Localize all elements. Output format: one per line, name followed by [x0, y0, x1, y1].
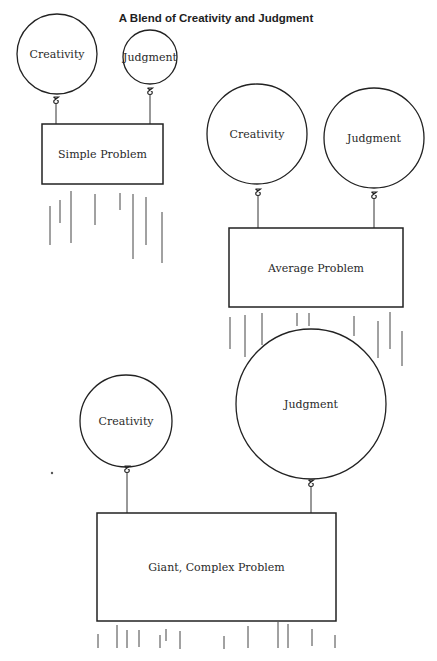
motion-lines [50, 191, 162, 263]
balloon-knot-icon [256, 189, 261, 196]
balloon-label: Judgment [346, 132, 402, 145]
balloon-judgment: Judgment [236, 329, 386, 487]
balloon-knot-icon [309, 480, 314, 487]
creativity-judgment-diagram: A Blend of Creativity and Judgment Creat… [0, 0, 437, 661]
balloon-label: Judgment [283, 398, 339, 411]
scene-average: CreativityJudgmentAverage Problem [207, 84, 424, 366]
scene-simple: CreativityJudgmentSimple Problem [17, 14, 178, 263]
balloon-label: Creativity [98, 415, 154, 428]
balloon-label: Creativity [29, 48, 85, 61]
balloon-creativity: Creativity [80, 375, 172, 473]
balloon-label: Judgment [122, 51, 178, 64]
balloon-knot-icon [372, 192, 377, 199]
problem-label: Average Problem [267, 262, 364, 275]
balloon-judgment: Judgment [324, 88, 424, 199]
motion-lines [98, 622, 335, 649]
balloon-judgment: Judgment [122, 30, 178, 95]
balloon-creativity: Creativity [207, 84, 307, 196]
balloon-creativity: Creativity [17, 14, 97, 104]
print-speck [51, 472, 53, 474]
diagram-title: A Blend of Creativity and Judgment [119, 12, 314, 24]
balloon-knot-icon [148, 88, 153, 95]
scene-giant: CreativityJudgmentGiant, Complex Problem [80, 329, 386, 649]
problem-label: Giant, Complex Problem [148, 561, 285, 574]
balloon-knot-icon [54, 97, 59, 104]
balloon-label: Creativity [229, 128, 285, 141]
scenes: CreativityJudgmentSimple ProblemCreativi… [17, 14, 424, 649]
problem-label: Simple Problem [58, 148, 147, 161]
